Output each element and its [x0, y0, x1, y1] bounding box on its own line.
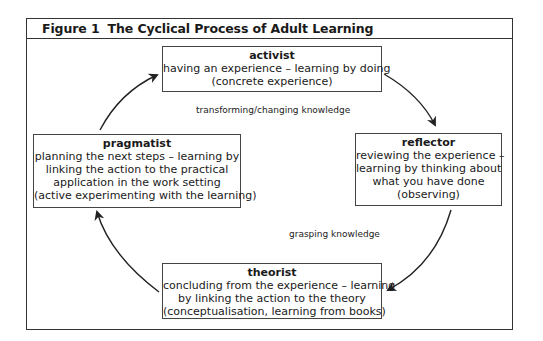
stage-description: by linking the action to the theory [163, 292, 381, 305]
stage-description: application in the work setting [34, 176, 240, 189]
stage-role: activist [163, 49, 381, 62]
stage-role: theorist [163, 266, 381, 279]
stage-description: (conceptualisation, learning from books) [163, 305, 381, 318]
stage-role: pragmatist [34, 137, 240, 150]
arrow-pragmatist-to-activist [100, 75, 157, 130]
arrow-activist-to-reflector [384, 74, 435, 125]
stage-description: concluding from the experience – learnin… [163, 279, 381, 292]
arrow-theorist-to-pragmatist [97, 212, 159, 292]
stage-description: linking the action to the practical [34, 163, 240, 176]
stage-reflector: reflector reviewing the experience – lea… [355, 133, 502, 206]
stage-description: (active experimenting with the learning) [34, 189, 240, 202]
label-transforming-knowledge: transforming/changing knowledge [196, 105, 350, 115]
stage-description: (concrete experience) [163, 75, 381, 88]
stage-pragmatist: pragmatist planning the next steps – lea… [33, 134, 241, 208]
stage-description: (observing) [356, 188, 501, 201]
stage-description: what you have done [356, 175, 501, 188]
stage-description: planning the next steps – learning by [34, 150, 240, 163]
arrow-reflector-to-theorist [388, 210, 451, 290]
stage-activist: activist having an experience – learning… [162, 46, 382, 92]
stage-description: having an experience – learning by doing [163, 62, 381, 75]
stage-role: reflector [356, 136, 501, 149]
label-grasping-knowledge: grasping knowledge [289, 229, 380, 239]
stage-theorist: theorist concluding from the experience … [162, 263, 382, 319]
stage-description: reviewing the experience – [356, 149, 501, 162]
stage-description: learning by thinking about [356, 162, 501, 175]
